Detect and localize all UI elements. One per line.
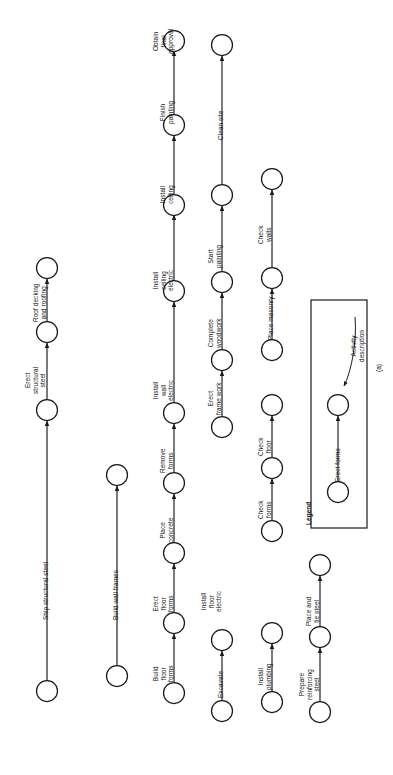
activity-label-remove-forms: Remove forms [159, 449, 174, 473]
event-node [310, 627, 331, 648]
label-line: Install [200, 593, 207, 610]
activity-label-build-floor-forms: Build floor forms [152, 666, 175, 682]
event-node [262, 340, 283, 361]
chain-4b [212, 35, 233, 438]
chain-5b [262, 395, 283, 542]
label-line: Check [257, 225, 264, 244]
activity-label-roof-decking-and-roofing: Roof decking and roofing [32, 283, 47, 322]
legend-event-node [328, 482, 349, 503]
activity-label-install-plumbing: Install plumbing [257, 663, 272, 690]
activity-label-erect-floor-forms: Erect floor forms [152, 596, 175, 612]
activity-label-clean-site: Clean site [217, 111, 225, 140]
activity-label-place-concrete: Place concrete [159, 518, 174, 543]
label-line: Build [152, 666, 159, 681]
label-line: reinforcing [306, 669, 313, 700]
event-node [37, 322, 58, 343]
label-line: Check [257, 437, 264, 456]
label-line: tie steel [313, 600, 320, 623]
event-node [164, 543, 185, 564]
label-line: frame work [215, 382, 222, 415]
label-line: forms [167, 666, 174, 682]
activity-label-complete-woodwork: Complete woodwork [207, 318, 222, 348]
event-node [212, 630, 233, 651]
label-line: electric [215, 591, 222, 612]
activity-label-check-walls: Check walls [257, 225, 272, 244]
label-line: forms [167, 453, 174, 469]
activity-label-install-ceiling: Install ceiling [159, 185, 174, 204]
event-node [212, 417, 233, 438]
event-node [212, 185, 233, 206]
label-line: Roof decking [32, 283, 39, 322]
event-node [212, 350, 233, 371]
event-node [37, 681, 58, 702]
label-line: walls [265, 227, 272, 242]
label-line: Remove [159, 449, 166, 473]
event-node [262, 169, 283, 190]
event-node [212, 701, 233, 722]
label-line: Install [152, 382, 159, 399]
label-line: Install [159, 186, 166, 203]
label-line: electric [167, 380, 174, 401]
label-line: floor [160, 667, 167, 680]
label-line: Erect [24, 373, 31, 388]
label-line: ceiling [160, 271, 167, 290]
network-diagram-graphic [0, 0, 393, 775]
label-line: floor [265, 440, 272, 453]
label-line: steel [313, 678, 320, 692]
label-line: Install [152, 272, 159, 289]
activity-label-place-and-tie-steel: Place and tie steel [305, 597, 320, 626]
label-line: Place [159, 522, 166, 539]
label-line: and roofing [40, 286, 47, 319]
label-line: floor [208, 595, 215, 608]
event-node [107, 465, 128, 486]
label-line: Obtain [152, 32, 159, 51]
label-line: wall [160, 385, 167, 396]
activity-label-obtain-final-approval: Obtain final approval [152, 29, 175, 54]
activity-label-ship-structural-steel: Ship structural steel [42, 562, 50, 620]
label-line: forms [167, 596, 174, 612]
event-node [37, 400, 58, 421]
activity-label-check-forms: Check forms [257, 500, 272, 519]
activity-label-check-floor: Check floor [257, 437, 272, 456]
activity-label-erect-frame-work: Erect frame work [207, 382, 222, 415]
label-line: forms [265, 501, 272, 517]
label-line: Install [257, 668, 264, 685]
label-line: painting [215, 245, 222, 268]
label-line: steel [39, 373, 46, 387]
label-line: electric [167, 270, 174, 291]
event-node [164, 683, 185, 704]
legend-activity-label: Erect forms [334, 448, 342, 482]
event-node [262, 268, 283, 289]
label-line: final [160, 35, 167, 47]
event-node [107, 666, 128, 687]
event-node [212, 272, 233, 293]
activity-label-prepare-reinforcing-steel: Prepare reinforcing steel [298, 669, 321, 700]
activity-label-finish-painting: Finish painting [159, 101, 174, 124]
event-node [164, 613, 185, 634]
label-line: floor [160, 597, 167, 610]
legend-title: Legend [305, 502, 313, 525]
event-node [262, 623, 283, 644]
event-node [262, 458, 283, 479]
activity-label-start-painting: Start painting [207, 245, 222, 268]
event-node [262, 395, 283, 416]
label-line: Complete [207, 319, 214, 347]
label-line: approval [167, 29, 174, 54]
legend-annotation-line: Activity [350, 335, 357, 356]
label-line: Start [207, 249, 214, 263]
event-node [262, 692, 283, 713]
activity-label-install-wall-electric: Install wall electric [152, 380, 175, 401]
event-node [37, 258, 58, 279]
label-line: structural [32, 367, 39, 394]
label-line: Place and [305, 597, 312, 626]
activity-label-place-masonry: Place masonry [267, 296, 275, 340]
event-node [164, 473, 185, 494]
legend-annotation: Activity description [350, 330, 365, 362]
figure-caption: (a) [375, 364, 382, 372]
activity-label-excavate: Excavate [217, 671, 225, 698]
label-line: woodwork [215, 318, 222, 348]
activity-label-erect-structural-steel: Erect structural steel [24, 367, 47, 394]
legend-event-node [328, 395, 349, 416]
label-line: concrete [167, 518, 174, 543]
label-line: painting [167, 101, 174, 124]
